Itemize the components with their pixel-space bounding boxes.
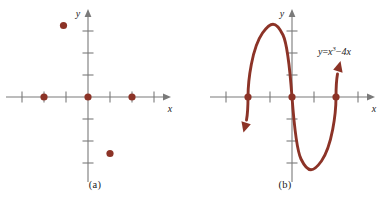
panel-b: x y y=x3−4x (b) bbox=[190, 0, 380, 199]
data-point bbox=[128, 93, 135, 100]
figure-two-panel-cubic-graph: x y (a) bbox=[0, 0, 380, 199]
arrowhead-down-left bbox=[241, 121, 250, 132]
data-point bbox=[106, 150, 113, 157]
arrowhead-up-right bbox=[333, 61, 342, 73]
data-point bbox=[84, 93, 91, 100]
x-axis-label-b: x bbox=[371, 103, 377, 114]
y-axis-label-b: y bbox=[279, 8, 285, 19]
equation-term: 4x bbox=[341, 46, 350, 57]
y-axis-label-a: y bbox=[75, 8, 81, 19]
caption-a: (a) bbox=[0, 179, 190, 190]
data-point bbox=[288, 93, 295, 100]
data-point bbox=[332, 93, 339, 100]
panel-a: x y (a) bbox=[0, 0, 190, 199]
data-point bbox=[60, 22, 67, 29]
caption-b: (b) bbox=[190, 179, 380, 190]
plot-b: x y bbox=[190, 0, 380, 199]
equation-label-b: y=x3−4x bbox=[318, 46, 351, 57]
x-axis-label-a: x bbox=[167, 103, 173, 114]
data-point bbox=[244, 93, 251, 100]
plot-a: x y bbox=[0, 0, 190, 199]
data-point bbox=[40, 93, 47, 100]
